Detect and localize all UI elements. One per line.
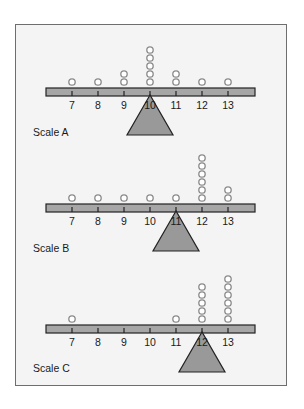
tick-label: 12	[196, 99, 208, 111]
tick-label: 9	[121, 336, 127, 348]
weight-circle	[95, 79, 101, 85]
weight-circle	[225, 276, 231, 282]
scale-a: 78910111213	[46, 47, 255, 135]
scale-c: 78910111213	[46, 276, 255, 372]
tick-label: 13	[222, 336, 234, 348]
weight-circle	[225, 292, 231, 298]
tick-label: 10	[144, 336, 156, 348]
tick-label: 13	[222, 99, 234, 111]
weight-circle	[199, 284, 205, 290]
tick-label: 11	[171, 99, 182, 111]
weight-circle	[225, 195, 231, 201]
tick-label: 10	[144, 99, 156, 111]
weight-circle	[225, 187, 231, 193]
balance-scales-diagram: 789101112137891011121378910111213	[0, 0, 304, 409]
weight-circle	[199, 79, 205, 85]
scale-b-label: Scale B	[33, 242, 69, 254]
weight-circle	[147, 63, 153, 69]
weight-circle	[225, 300, 231, 306]
weight-circle	[199, 187, 205, 193]
scale-a-label: Scale A	[33, 126, 69, 138]
weight-circle	[121, 79, 127, 85]
tick-label: 7	[69, 336, 75, 348]
weight-circle	[147, 195, 153, 201]
weight-circle	[121, 195, 127, 201]
tick-label: 12	[196, 336, 208, 348]
weight-circle	[173, 316, 179, 322]
tick-label: 8	[95, 99, 101, 111]
tick-label: 9	[121, 215, 127, 227]
weight-circle	[69, 79, 75, 85]
weight-circle	[147, 55, 153, 61]
weight-circle	[199, 300, 205, 306]
weight-circle	[173, 79, 179, 85]
scale-b: 78910111213	[46, 155, 255, 251]
tick-label: 11	[171, 215, 182, 227]
weight-circle	[147, 71, 153, 77]
weight-circle	[199, 195, 205, 201]
weight-circle	[199, 316, 205, 322]
tick-label: 7	[69, 215, 75, 227]
weight-circle	[199, 292, 205, 298]
weight-circle	[199, 308, 205, 314]
tick-label: 7	[69, 99, 75, 111]
weight-circle	[69, 195, 75, 201]
weight-circle	[147, 47, 153, 53]
weight-circle	[225, 308, 231, 314]
weight-circle	[225, 284, 231, 290]
tick-label: 9	[121, 99, 127, 111]
tick-label: 8	[95, 336, 101, 348]
weight-circle	[199, 171, 205, 177]
tick-label: 10	[144, 215, 156, 227]
weight-circle	[173, 71, 179, 77]
weight-circle	[147, 79, 153, 85]
weight-circle	[199, 179, 205, 185]
weight-circle	[225, 79, 231, 85]
weight-circle	[121, 71, 127, 77]
weight-circle	[199, 163, 205, 169]
scale-c-label: Scale C	[33, 362, 70, 374]
weight-circle	[173, 195, 179, 201]
tick-label: 12	[196, 215, 208, 227]
weight-circle	[225, 316, 231, 322]
tick-label: 13	[222, 215, 234, 227]
weight-circle	[69, 316, 75, 322]
weight-circle	[95, 195, 101, 201]
weight-circle	[199, 155, 205, 161]
tick-label: 8	[95, 215, 101, 227]
tick-label: 11	[171, 336, 182, 348]
